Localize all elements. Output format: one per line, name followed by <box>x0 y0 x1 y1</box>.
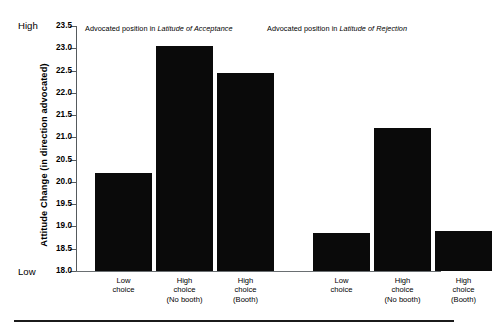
bar <box>374 128 431 271</box>
y-axis-tick-label: 22.0 <box>46 88 72 97</box>
x-axis-label-line: Low <box>313 276 370 285</box>
y-axis-tick-label: 18.5 <box>46 244 72 253</box>
y-axis-tick-label: 19.0 <box>46 221 72 230</box>
group-header-acceptance: Advocated position in Latitude of Accept… <box>85 24 233 33</box>
y-axis-line <box>76 26 77 272</box>
x-axis-label-line: Low <box>95 276 152 285</box>
y-axis-tick-label: 21.5 <box>46 110 72 119</box>
x-axis-label-line: (Booth) <box>217 295 274 304</box>
x-axis-label: Highchoice(Booth) <box>217 276 274 304</box>
group-header-rejection-emphasis: Latitude of Rejection <box>340 24 408 33</box>
x-axis-label-line: choice <box>313 285 370 294</box>
y-axis-tick-label: 18.0 <box>46 266 72 275</box>
y-axis-tick-label: 23.5 <box>46 21 72 30</box>
bar <box>217 73 274 271</box>
bar <box>313 233 370 271</box>
x-axis-label-line: High <box>156 276 213 285</box>
y-axis-tick-label: 20.0 <box>46 177 72 186</box>
x-axis-label: Highchoice(No booth) <box>374 276 431 304</box>
x-axis-label-line: High <box>435 276 492 285</box>
x-axis-label-line: (No booth) <box>156 295 213 304</box>
x-axis-line <box>76 271 441 272</box>
y-axis-tick-label: 20.5 <box>46 155 72 164</box>
group-header-acceptance-prefix: Advocated position in <box>85 24 158 33</box>
x-axis-label-line: choice <box>156 285 213 294</box>
x-axis-label: Highchoice(Booth) <box>435 276 492 304</box>
bar <box>435 231 492 271</box>
y-axis-tick-label: 23.0 <box>46 43 72 52</box>
x-axis-label-line: High <box>374 276 431 285</box>
x-axis-label: Lowchoice <box>95 276 152 295</box>
group-header-rejection-prefix: Advocated position in <box>267 24 340 33</box>
x-axis-label-line: choice <box>217 285 274 294</box>
x-axis-label: Highchoice(No booth) <box>156 276 213 304</box>
x-axis-label-line: (No booth) <box>374 295 431 304</box>
group-header-rejection: Advocated position in Latitude of Reject… <box>267 24 407 33</box>
bar <box>156 46 213 271</box>
bar <box>95 173 152 271</box>
x-axis-label-line: (Booth) <box>435 295 492 304</box>
x-axis-label-line: High <box>217 276 274 285</box>
group-header-acceptance-emphasis: Latitude of Acceptance <box>158 24 233 33</box>
y-axis-tick-label: 21.0 <box>46 132 72 141</box>
x-axis-label-line: choice <box>374 285 431 294</box>
x-axis-label-line: choice <box>95 285 152 294</box>
x-axis-label-line: choice <box>435 285 492 294</box>
y-axis-tick-label: 19.5 <box>46 199 72 208</box>
x-axis-label: Lowchoice <box>313 276 370 295</box>
y-axis-tick-label: 22.5 <box>46 66 72 75</box>
figure-bottom-rule <box>14 320 454 322</box>
